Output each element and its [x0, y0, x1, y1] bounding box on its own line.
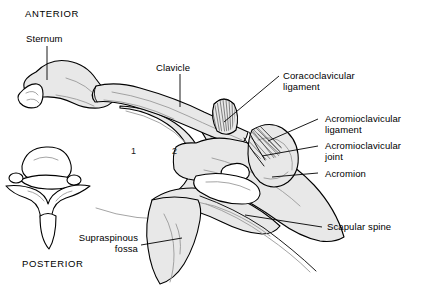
label-acromioclavicular-ligament-line1: Acromioclavicular [325, 113, 401, 124]
label-supraspinous-fossa-line2: fossa [66, 243, 138, 254]
label-supraspinous-fossa-line1: Supraspinous [66, 232, 138, 243]
orientation-label-posterior: POSTERIOR [22, 258, 83, 269]
anatomy-figure: .b{fill:#e8e8e8;stroke:#000;stroke-width… [0, 0, 423, 287]
label-coracoclavicular-ligament-line2: ligament [283, 81, 355, 92]
label-acromioclavicular-joint-line2: joint [325, 151, 401, 162]
label-acromioclavicular-ligament-line2: ligament [325, 124, 401, 135]
orientation-label-anterior: ANTERIOR [25, 8, 79, 19]
rib-number-first: 1 [131, 146, 136, 156]
label-coracoclavicular-ligament-line1: Coracoclavicular [283, 70, 355, 81]
leader-coracoclavicular-ligament [224, 76, 279, 122]
label-acromioclavicular-joint-line1: Acromioclavicular [325, 140, 401, 151]
scapula [147, 138, 344, 284]
label-acromion: Acromion [325, 168, 366, 179]
label-scapular-spine: Scapular spine [327, 221, 391, 232]
label-sternum: Sternum [26, 33, 63, 44]
label-supraspinous-fossa: Supraspinous fossa [66, 232, 138, 254]
label-acromioclavicular-ligament: Acromioclavicular ligament [325, 113, 401, 135]
label-clavicle: Clavicle [156, 62, 190, 73]
label-coracoclavicular-ligament: Coracoclavicular ligament [283, 70, 355, 92]
label-acromioclavicular-joint: Acromioclavicular joint [325, 140, 401, 162]
rib-number-second: 2 [172, 146, 177, 156]
